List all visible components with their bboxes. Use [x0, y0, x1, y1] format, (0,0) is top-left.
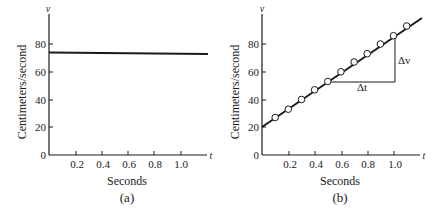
chart-a-y-title: Centimeters/second	[15, 45, 29, 140]
chart-a-velocity-line	[49, 53, 208, 55]
data-point	[403, 23, 410, 30]
data-point	[325, 78, 332, 85]
chart-a-ytick-20: 20	[35, 121, 47, 133]
figure: 0 20 40 60 80 0.2 0.4 0.6 0.8 1.0 v t Se…	[0, 0, 443, 209]
chart-b-delta-v-label: Δv	[398, 54, 411, 66]
chart-a-xtick-0.8: 0.8	[148, 158, 162, 170]
chart-b-x-var: t	[423, 150, 426, 161]
chart-a-xtick-0.6: 0.6	[122, 158, 136, 170]
chart-b-delta-t-label: Δt	[357, 81, 367, 93]
chart-b-x-title: Seconds	[320, 174, 360, 188]
chart-b-xtick-0.8: 0.8	[361, 158, 375, 170]
chart-a-x-title: Seconds	[107, 174, 147, 188]
data-point	[351, 59, 358, 66]
chart-b-ytick-0: 0	[254, 149, 260, 161]
chart-a-ytick-40: 40	[35, 94, 47, 106]
chart-b-xtick-0.2: 0.2	[283, 158, 297, 170]
chart-b-ytick-20: 20	[248, 121, 260, 133]
data-point	[364, 50, 371, 57]
chart-a-ytick-60: 60	[35, 66, 47, 78]
data-point	[390, 32, 397, 39]
chart-a-caption: (a)	[120, 190, 134, 205]
chart-a-x-var: t	[210, 150, 213, 161]
chart-b-xtick-0.4: 0.4	[309, 158, 323, 170]
chart-a-ytick-80: 80	[35, 38, 47, 50]
data-point	[338, 69, 345, 76]
chart-b: 0 20 40 60 80 0.2 0.4 0.6 0.8 1.0 v t Se…	[228, 3, 426, 205]
chart-b-xtick-1.0: 1.0	[388, 158, 402, 170]
chart-b-y-var: v	[260, 3, 265, 14]
chart-a-xtick-1.0: 1.0	[174, 158, 188, 170]
chart-b-caption: (b)	[332, 190, 347, 205]
data-point	[272, 114, 279, 121]
chart-b-ytick-40: 40	[248, 94, 260, 106]
chart-b-ytick-80: 80	[248, 38, 260, 50]
chart-b-xtick-0.6: 0.6	[335, 158, 349, 170]
data-point	[311, 87, 318, 94]
chart-a-xtick-0.2: 0.2	[70, 158, 84, 170]
data-point	[285, 106, 292, 113]
chart-a-xtick-0.4: 0.4	[96, 158, 110, 170]
chart-a-ytick-0: 0	[41, 149, 47, 161]
data-point	[377, 41, 384, 48]
data-point	[298, 96, 305, 103]
chart-b-ytick-60: 60	[248, 66, 260, 78]
chart-a-y-var: v	[46, 3, 51, 14]
chart-a: 0 20 40 60 80 0.2 0.4 0.6 0.8 1.0 v t Se…	[15, 3, 213, 205]
chart-b-y-title: Centimeters/second	[228, 45, 242, 140]
